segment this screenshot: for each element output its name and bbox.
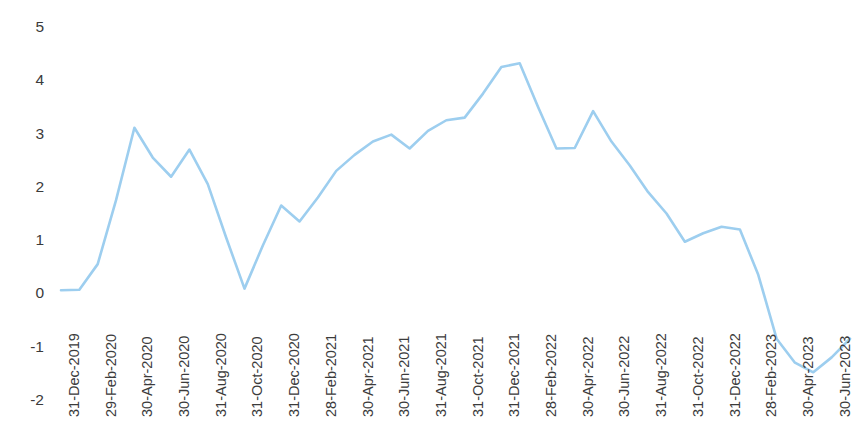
x-axis-tick-label: 30-Jun-2020: [177, 336, 192, 417]
x-axis-tick-label: 31-Dec-2021: [507, 333, 522, 417]
y-axis-tick-label: 3: [14, 126, 44, 142]
x-axis-tick-label: 31-Dec-2019: [67, 333, 82, 417]
x-axis-tick-label: 31-Oct-2021: [471, 336, 486, 417]
data-series-line: [61, 63, 850, 372]
x-axis-tick-label: 31-Aug-2021: [434, 333, 449, 417]
x-axis-tick-label: 29-Feb-2020: [104, 334, 119, 417]
x-axis-tick-label: 31-Oct-2022: [691, 336, 706, 417]
x-axis-tick-label: 31-Dec-2020: [287, 333, 302, 417]
y-axis-tick-label: 5: [14, 19, 44, 35]
x-axis-tick-label: 30-Jun-2022: [617, 336, 632, 417]
y-axis-tick-label: 0: [14, 285, 44, 301]
x-axis-tick-label: 28-Feb-2022: [544, 334, 559, 417]
y-axis-tick-label: 4: [14, 72, 44, 88]
x-axis-tick-label: 30-Jun-2023: [838, 336, 853, 417]
line-chart: 543210-1-2 31-Dec-201929-Feb-202030-Apr-…: [0, 0, 858, 423]
y-axis-tick-label: -2: [14, 392, 44, 408]
x-axis-tick-label: 31-Aug-2022: [654, 333, 669, 417]
x-axis-tick-label: 30-Apr-2023: [801, 336, 816, 417]
x-axis-tick-label: 30-Apr-2022: [581, 336, 596, 417]
x-axis-tick-label: 28-Feb-2021: [324, 334, 339, 417]
y-axis-tick-label: 2: [14, 179, 44, 195]
x-axis-tick-label: 31-Dec-2022: [728, 333, 743, 417]
x-axis-tick-label: 31-Aug-2020: [214, 333, 229, 417]
x-axis-tick-label: 30-Jun-2021: [397, 336, 412, 417]
x-axis-tick-label: 28-Feb-2023: [764, 334, 779, 417]
x-axis-tick-label: 30-Apr-2020: [140, 336, 155, 417]
x-axis-tick-label: 30-Apr-2021: [361, 336, 376, 417]
y-axis-tick-label: -1: [14, 339, 44, 355]
y-axis-tick-label: 1: [14, 232, 44, 248]
x-axis-tick-label: 31-Oct-2020: [250, 336, 265, 417]
